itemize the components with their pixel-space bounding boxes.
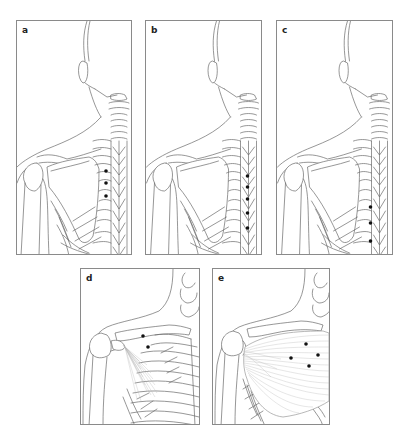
- panel-c: c: [276, 20, 393, 255]
- back-skeleton-drawing: [17, 21, 129, 255]
- posterior-back-illustration: [17, 21, 132, 255]
- front-skeleton-drawing: [83, 269, 199, 425]
- back-skeleton-drawing: [147, 21, 259, 255]
- panel-label-b: b: [151, 25, 157, 35]
- panel-label-d: d: [86, 273, 92, 283]
- acupressure-points: [104, 169, 108, 198]
- panel-label-e: e: [218, 273, 224, 283]
- panel-e: e: [212, 268, 330, 425]
- panel-d: d: [80, 268, 200, 425]
- panel-a: a: [16, 20, 132, 255]
- panel-label-c: c: [282, 25, 287, 35]
- panel-b: b: [145, 20, 262, 255]
- panel-label-a: a: [22, 25, 28, 35]
- posterior-back-illustration: [277, 21, 393, 255]
- anterior-chest-illustration: [81, 269, 200, 425]
- back-skeleton-drawing: [278, 21, 390, 255]
- posterior-back-illustration: [146, 21, 262, 255]
- anterior-chest-illustration: [213, 269, 330, 425]
